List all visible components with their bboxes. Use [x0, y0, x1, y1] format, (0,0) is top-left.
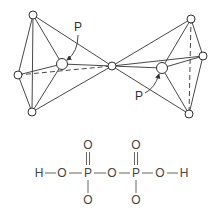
structural-formula: H O P O P O H O O O O — [35, 138, 189, 207]
formula-atom-h2: H — [180, 166, 189, 180]
bridging-oxygen-atom — [108, 62, 116, 70]
oxygen-atom-bottom-left — [28, 108, 36, 116]
p-right-arrow-icon — [145, 74, 159, 93]
oxygen-atom-left — [14, 71, 22, 79]
oxygen-atom-right — [199, 52, 207, 60]
formula-atom-o-bot2: O — [131, 193, 140, 207]
formula-atom-o-top1: O — [83, 138, 92, 152]
formula-atom-o4: O — [155, 166, 164, 180]
formula-atom-p1: P — [84, 166, 92, 180]
pyrophosphate-diagram: P P H O P O P O H O O O O — [0, 0, 216, 219]
formula-atom-o-bridge: O — [107, 166, 116, 180]
oxygen-atom-bottom-right — [185, 110, 193, 118]
oxygen-atom-top-left — [29, 11, 37, 19]
formula-atom-p2: P — [132, 166, 140, 180]
formula-atom-o-bot1: O — [83, 193, 92, 207]
p-left-arrow-icon — [67, 35, 78, 60]
formula-atom-o-top2: O — [131, 138, 140, 152]
p-left-label: P — [74, 20, 82, 34]
formula-atom-h1: H — [35, 166, 44, 180]
phosphorus-atom-left — [57, 59, 68, 70]
oxygen-atom-top-right — [187, 15, 195, 23]
phosphorus-atom-right — [157, 63, 168, 74]
p-right-label: P — [135, 89, 143, 103]
formula-atom-o1: O — [57, 166, 66, 180]
